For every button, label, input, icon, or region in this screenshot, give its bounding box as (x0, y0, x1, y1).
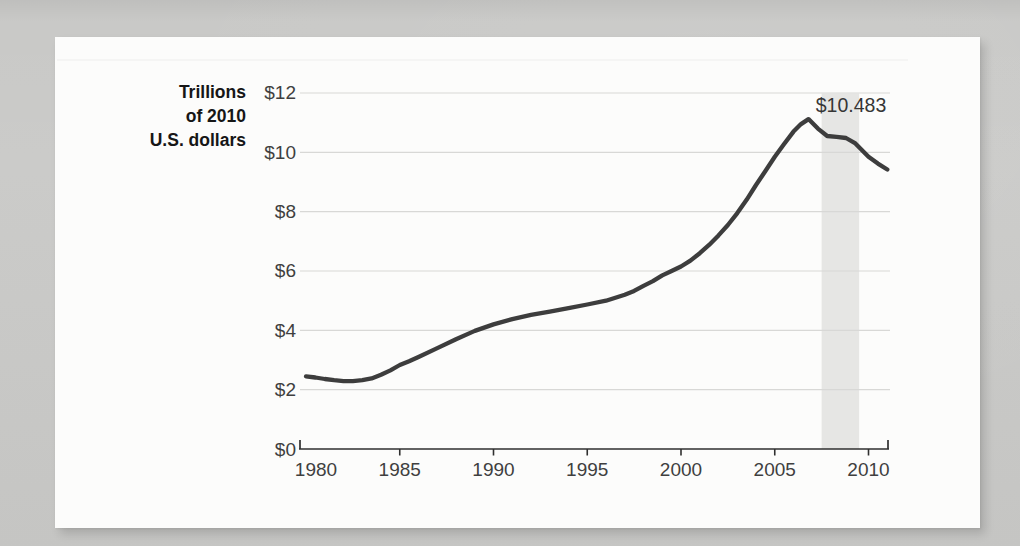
scanned-page-background: $0$2$4$6$8$10$12 19801985199019952000200… (0, 0, 1020, 546)
figure-card (55, 37, 980, 528)
